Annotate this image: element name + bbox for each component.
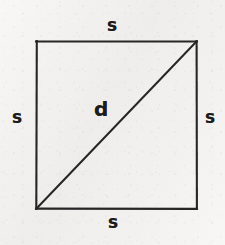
side-length-label-left: s <box>12 109 22 126</box>
square-left-edge <box>36 41 37 209</box>
square-diagonal-line <box>37 42 197 209</box>
geometry-figure: s s s s d <box>0 0 225 245</box>
square-diagonal-drawing <box>0 0 225 245</box>
diagonal-length-label: d <box>94 99 108 119</box>
side-length-label-top: s <box>107 17 117 34</box>
side-length-label-bottom: s <box>108 214 118 231</box>
side-length-label-right: s <box>205 109 215 126</box>
